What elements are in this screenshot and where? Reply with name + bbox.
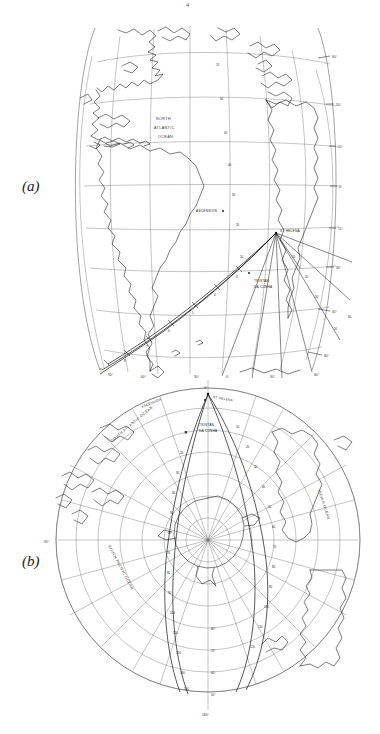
map-b-meridian-labels: 0° 90° 180° xyxy=(44,386,210,717)
svg-text:40: 40 xyxy=(262,485,266,489)
svg-text:10: 10 xyxy=(292,255,296,259)
map-a-parallels xyxy=(84,52,340,357)
station-label-st-helena: ST HELENA xyxy=(280,229,301,233)
map-a-meridians xyxy=(80,26,333,374)
map-b-range-tick-labels: 10 20 30 40 50 60 70 80 90 100 110 120 1… xyxy=(167,431,189,691)
svg-text:30: 30 xyxy=(176,471,180,475)
lat-label-3: 0° xyxy=(339,185,343,189)
station-label-ascension: ASCENSION xyxy=(196,209,217,213)
svg-text:10: 10 xyxy=(236,425,240,429)
svg-text:110: 110 xyxy=(258,625,263,629)
svg-text:80: 80 xyxy=(272,565,276,569)
map-a-coastline-north-america xyxy=(80,27,190,136)
svg-text:60: 60 xyxy=(168,531,172,535)
svg-text:40: 40 xyxy=(172,491,176,495)
map-b-raypath-group xyxy=(165,394,268,694)
lon-label-0: 90° xyxy=(108,373,114,377)
svg-text:7: 7 xyxy=(146,345,148,349)
panel-a: 3 4 5 6 7 8 9 xyxy=(0,0,380,380)
map-a-coastline-antarctica xyxy=(240,368,300,374)
svg-text:9: 9 xyxy=(100,368,102,372)
map-a-outline xyxy=(75,28,336,370)
svg-text:110: 110 xyxy=(173,631,178,635)
station-label-da-cunha: DA CUNHA xyxy=(254,285,273,289)
ocean-label-indian: INDIAN OCEAN xyxy=(317,489,331,520)
svg-text:20: 20 xyxy=(305,275,309,279)
panel-label-b: (b) xyxy=(22,553,40,570)
map-b-ocean-label-indian: INDIAN OCEAN xyxy=(317,489,331,520)
station-label-da-cunha-b: DA CUNHA xyxy=(199,429,218,433)
lon-label-5: 60° xyxy=(314,373,320,377)
meridian-label-90: 90° xyxy=(44,540,50,544)
svg-text:5: 5 xyxy=(192,311,194,315)
svg-text:50°: 50° xyxy=(211,693,215,697)
svg-text:100: 100 xyxy=(264,605,269,609)
svg-text:50: 50 xyxy=(268,505,272,509)
lat-label-0: 60° xyxy=(332,55,338,59)
svg-text:60: 60 xyxy=(220,97,224,101)
lon-label-4: 30° xyxy=(270,375,276,379)
lon-label-2: 30° xyxy=(194,375,200,379)
ocean-label-south-atlantic: SOUTH ATLANTIC OCEAN xyxy=(110,405,153,442)
lon-label-1: 60° xyxy=(141,375,147,379)
svg-text:120: 120 xyxy=(176,651,181,655)
svg-text:20: 20 xyxy=(180,451,184,455)
map-b-range-tick-labels-right: 10 20 30 40 50 60 70 80 90 100 110 120 xyxy=(236,425,277,649)
svg-text:60: 60 xyxy=(348,315,352,319)
svg-text:30: 30 xyxy=(315,295,319,299)
panel-b: 10 20 30 40 50 60 70 80 90 100 110 120 1… xyxy=(0,380,380,734)
ocean-label-line3: OCEAN xyxy=(158,135,173,139)
lat-label-5: 30° xyxy=(336,266,342,270)
map-b-ocean-label-south-atlantic: SOUTH ATLANTIC OCEAN xyxy=(110,405,153,442)
lat-label-4: 15° xyxy=(338,227,344,231)
svg-text:6: 6 xyxy=(168,329,170,333)
svg-text:30: 30 xyxy=(254,465,258,469)
svg-text:3: 3 xyxy=(236,275,238,279)
svg-text:70: 70 xyxy=(167,551,171,555)
map-a-lat-labels: 60° 50° 15° 0° 15° 30° 45° 60° xyxy=(324,55,344,358)
map-a-station-ascension: ASCENSION xyxy=(196,209,224,213)
meridian-label-180: 180° xyxy=(202,713,210,717)
ocean-label-line2: ATLANTIC xyxy=(154,126,175,130)
svg-text:70: 70 xyxy=(273,545,277,549)
map-b-coastline-africa xyxy=(272,428,352,542)
svg-text:80°: 80° xyxy=(211,627,215,631)
svg-text:140: 140 xyxy=(184,687,189,691)
map-a-ray-range-labels: 10 20 30 10 20 30 40 50 60 70 50 60 xyxy=(216,63,352,331)
station-label-st-helena-b: ST HELENA xyxy=(213,395,234,403)
map-a-station-st-helena: ST HELENA xyxy=(275,229,301,234)
station-label-tristan: TRISTAN xyxy=(254,279,270,283)
lat-label-7: 60° xyxy=(324,354,330,358)
svg-text:90: 90 xyxy=(168,591,172,595)
ocean-label-line1: NORTH xyxy=(156,117,171,121)
lon-label-3: 0° xyxy=(226,375,230,379)
map-a-coastline-islands-south xyxy=(172,340,203,356)
svg-text:50: 50 xyxy=(170,511,174,515)
map-b-inner-ring-labels: 80° 70° 60° 50° xyxy=(211,627,215,697)
svg-text:70: 70 xyxy=(216,63,220,67)
svg-text:90: 90 xyxy=(269,585,273,589)
svg-text:4: 4 xyxy=(214,293,216,297)
svg-text:60°: 60° xyxy=(211,671,215,675)
lat-label-1: 50° xyxy=(336,103,342,107)
svg-text:30: 30 xyxy=(232,193,236,197)
svg-text:130: 130 xyxy=(180,671,185,675)
lat-label-2: 15° xyxy=(338,145,344,149)
svg-text:50: 50 xyxy=(334,327,338,331)
svg-text:120: 120 xyxy=(250,645,255,649)
svg-text:80: 80 xyxy=(167,571,171,575)
svg-text:60: 60 xyxy=(272,525,276,529)
map-a-ocean-label: NORTH ATLANTIC OCEAN xyxy=(154,117,175,139)
svg-text:40: 40 xyxy=(228,163,232,167)
svg-text:20: 20 xyxy=(236,223,240,227)
map-b-svg: 10 20 30 40 50 60 70 80 90 100 110 120 1… xyxy=(0,380,380,734)
svg-text:70°: 70° xyxy=(211,649,215,653)
station-label-tristan-b: TRISTAN xyxy=(199,423,215,427)
map-a-svg: 3 4 5 6 7 8 9 xyxy=(0,0,380,380)
svg-text:20: 20 xyxy=(246,445,250,449)
svg-text:100: 100 xyxy=(170,611,175,615)
svg-text:50: 50 xyxy=(224,131,228,135)
lat-label-6: 45° xyxy=(332,310,338,314)
figure-page: 4 xyxy=(0,0,380,734)
map-b-coastline-south-america xyxy=(262,570,346,668)
